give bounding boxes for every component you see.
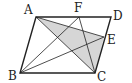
geometry-diagram: A D B C F E [0, 0, 132, 83]
label-C: C [97, 70, 106, 83]
label-B: B [8, 69, 17, 83]
label-D: D [113, 9, 123, 23]
label-F: F [74, 1, 82, 15]
label-E: E [107, 33, 116, 47]
label-A: A [23, 3, 33, 17]
